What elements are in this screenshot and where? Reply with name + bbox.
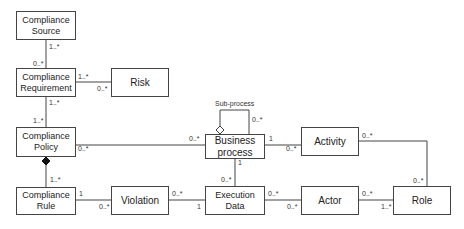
multiplicity-label: 0..*	[189, 135, 200, 142]
multiplicity-label: 0..*	[221, 176, 232, 183]
class-compliance-policy: Compliance Policy	[16, 127, 76, 157]
multiplicity-label: 0..*	[99, 203, 110, 210]
multiplicity-label: 0..*	[268, 190, 279, 197]
class-label: Violation	[121, 195, 159, 207]
class-label: Activity	[314, 136, 346, 148]
class-compliance-source: Compliance Source	[16, 11, 76, 40]
class-label: Compliance Source	[17, 15, 75, 37]
class-label: Business process	[206, 135, 264, 159]
multiplicity-label: 1..*	[78, 73, 89, 80]
class-compliance-requirement: Compliance Requirement	[16, 68, 76, 97]
class-business-process: Business process	[205, 134, 265, 159]
multiplicity-label: 0..*	[286, 145, 297, 152]
aggregation-diamond-icon	[216, 126, 224, 134]
multiplicity-label: 1	[238, 159, 242, 166]
class-label: Actor	[318, 195, 341, 207]
class-label: Execution Data	[206, 190, 264, 212]
multiplicity-label: 1	[79, 190, 83, 197]
multiplicity-label: 0..*	[252, 116, 263, 123]
multiplicity-label: 1	[197, 203, 201, 210]
class-activity: Activity	[301, 127, 359, 156]
class-actor: Actor	[301, 186, 359, 215]
class-label: Compliance Requirement	[17, 72, 75, 94]
class-execution-data: Execution Data	[205, 186, 265, 215]
multiplicity-label: 1..*	[49, 99, 60, 106]
multiplicity-label: 1..*	[49, 43, 60, 50]
class-label: Role	[412, 195, 433, 207]
multiplicity-label: 0..*	[97, 85, 108, 92]
class-role: Role	[393, 186, 451, 215]
class-label: Risk	[130, 77, 149, 89]
class-compliance-rule: Compliance Rule	[16, 187, 76, 215]
multiplicity-label: 0..*	[78, 145, 89, 152]
multiplicity-label: 1..*	[33, 117, 44, 124]
sub-process-label: Sub-process	[215, 100, 254, 107]
multiplicity-label: 0..*	[413, 177, 424, 184]
multiplicity-label: 0..*	[362, 190, 373, 197]
multiplicity-label: 1	[269, 135, 273, 142]
multiplicity-label: 1..*	[50, 176, 61, 183]
class-risk: Risk	[111, 68, 169, 97]
multiplicity-label: 0..*	[172, 190, 183, 197]
multiplicity-label: 0..*	[33, 60, 44, 67]
class-label: Compliance Policy	[17, 131, 75, 153]
class-violation: Violation	[111, 186, 169, 215]
composition-diamond-icon	[42, 157, 50, 165]
class-label: Compliance Rule	[17, 190, 75, 212]
multiplicity-label: 0..*	[362, 132, 373, 139]
multiplicity-label: 1..*	[381, 203, 392, 210]
multiplicity-label: 0..*	[287, 203, 298, 210]
